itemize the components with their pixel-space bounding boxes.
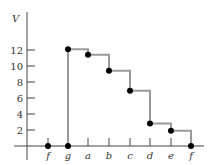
tick-labels: V24681012fgabcdef — [10, 13, 195, 161]
x-tick-label: c — [127, 150, 133, 161]
step-chart: V24681012fgabcdef — [0, 0, 208, 165]
y-tick-label: 8 — [17, 77, 23, 88]
y-tick-label: 6 — [17, 93, 23, 104]
x-tick-label: b — [106, 150, 112, 161]
data-point — [85, 52, 91, 58]
x-tick-label: d — [147, 150, 153, 161]
x-tick-label: g — [65, 150, 71, 161]
x-tick-label: a — [85, 150, 91, 161]
data-point — [106, 68, 112, 74]
data-point — [45, 143, 51, 149]
data-point — [127, 88, 133, 94]
data-point — [168, 128, 174, 134]
data-point — [188, 143, 194, 149]
x-tick-label: f — [45, 150, 52, 161]
y-axis-label: V — [12, 13, 21, 24]
y-tick-label: 10 — [10, 61, 23, 72]
data-point — [65, 46, 71, 52]
axes — [14, 12, 204, 160]
y-tick-label: 2 — [17, 125, 23, 136]
data-point — [65, 143, 71, 149]
x-tick-label: f — [188, 150, 195, 161]
y-tick-label: 4 — [17, 109, 23, 120]
data-point — [147, 121, 153, 127]
x-tick-label: e — [168, 150, 174, 161]
y-tick-label: 12 — [10, 45, 23, 56]
